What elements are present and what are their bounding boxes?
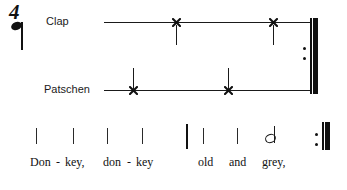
lyric-syllable: key,	[65, 155, 85, 170]
rhythm-tick-2	[73, 128, 74, 144]
part-label-patschen: Patschen	[44, 83, 90, 95]
half-note-stem-icon	[274, 126, 275, 143]
note-stem-clap-1	[176, 25, 177, 45]
lyric-hyphen: -	[127, 155, 131, 170]
lyric-syllable: don	[103, 155, 121, 170]
lyric-syllable: and	[229, 155, 246, 170]
note-stem-clap-2	[273, 25, 274, 45]
repeat-dot-lower-rhythm	[315, 143, 318, 146]
repeat-thick-line-rhythm	[325, 122, 330, 150]
lyric-hyphen: -	[56, 155, 60, 170]
repeat-thin-line-rhythm	[322, 122, 324, 150]
lyric-syllable: Don	[30, 155, 51, 170]
rhythm-tick-1	[36, 128, 37, 144]
lyric-syllable: old	[198, 155, 213, 170]
music-notation-sheet: 4 Clap Patschen	[0, 0, 347, 190]
repeat-dot-upper	[303, 47, 306, 50]
repeat-dot-lower	[303, 57, 306, 60]
rhythm-tick-4	[142, 128, 143, 144]
quarter-note-stem-icon	[21, 22, 23, 50]
part-label-clap: Clap	[46, 15, 69, 27]
rhythm-tick-6	[237, 128, 238, 144]
lyric-syllable: key	[136, 155, 153, 170]
lyric-syllable: grey,	[262, 155, 286, 170]
rhythm-barline	[186, 124, 188, 149]
time-signature-numerator: 4	[9, 2, 19, 23]
note-stem-patschen-2	[228, 68, 229, 90]
repeat-thick-line	[313, 18, 318, 94]
repeat-thin-line	[310, 18, 312, 94]
rhythm-tick-5	[203, 128, 204, 144]
note-stem-patschen-1	[133, 68, 134, 90]
rhythm-tick-3	[107, 128, 108, 144]
staff-line-clap	[104, 22, 310, 23]
repeat-dot-upper-rhythm	[315, 133, 318, 136]
